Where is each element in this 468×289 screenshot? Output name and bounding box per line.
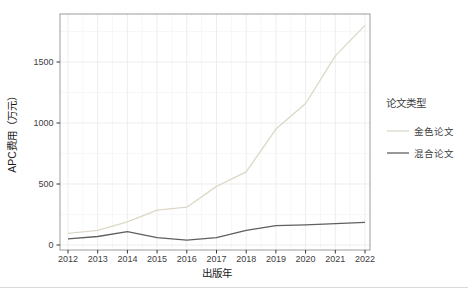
x-tick-label: 2012 xyxy=(58,254,78,264)
chart-canvas: 2012201320142015201620172018201920202021… xyxy=(0,0,468,289)
legend-title: 论文类型 xyxy=(386,97,426,109)
x-axis-title: 出版年 xyxy=(202,267,232,279)
legend-items: 金色论文混合论文 xyxy=(387,126,454,159)
y-axis-ticks xyxy=(57,62,61,245)
y-tick-label: 0 xyxy=(48,240,53,250)
y-axis-title: APC费用（万元） xyxy=(6,91,18,173)
x-tick-label: 2015 xyxy=(147,254,167,264)
x-tick-label: 2018 xyxy=(236,254,256,264)
x-tick-label: 2022 xyxy=(355,254,375,264)
x-tick-label: 2014 xyxy=(117,254,137,264)
y-axis-tick-labels: 050010001500 xyxy=(33,57,53,250)
legend-label-金色论文: 金色论文 xyxy=(414,126,454,137)
x-axis-ticks xyxy=(68,250,365,254)
legend-label-混合论文: 混合论文 xyxy=(414,148,454,159)
y-tick-label: 1500 xyxy=(33,57,53,67)
bottom-divider-line xyxy=(0,287,468,288)
minor-gridlines xyxy=(60,14,370,250)
x-tick-label: 2021 xyxy=(325,254,345,264)
x-tick-label: 2019 xyxy=(266,254,286,264)
x-tick-label: 2013 xyxy=(88,254,108,264)
x-axis-tick-labels: 2012201320142015201620172018201920202021… xyxy=(58,254,375,264)
y-tick-label: 500 xyxy=(38,179,53,189)
y-tick-label: 1000 xyxy=(33,118,53,128)
x-tick-label: 2020 xyxy=(296,254,316,264)
x-tick-label: 2016 xyxy=(177,254,197,264)
apc-cost-line-chart: 2012201320142015201620172018201920202021… xyxy=(0,0,468,289)
legend: 论文类型 金色论文混合论文 xyxy=(386,97,454,159)
x-tick-label: 2017 xyxy=(206,254,226,264)
